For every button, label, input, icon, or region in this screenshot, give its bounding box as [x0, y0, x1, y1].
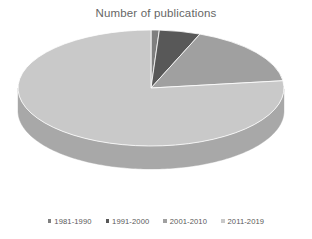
- square-marker-icon: [106, 219, 110, 223]
- legend-item[interactable]: 2001-2010: [163, 217, 207, 226]
- legend-item[interactable]: 2011-2019: [221, 217, 264, 226]
- pie-chart-figure: Number of publications 1981-1990 1991-20…: [0, 0, 312, 239]
- legend-item[interactable]: 1991-2000: [106, 217, 150, 226]
- square-marker-icon: [48, 219, 52, 223]
- pie-top-faces: [18, 30, 284, 146]
- legend-item-label: 2011-2019: [228, 217, 265, 226]
- legend-item[interactable]: 1981-1990: [48, 217, 92, 226]
- legend-item-label: 2001-2010: [170, 217, 207, 226]
- chart-legend: 1981-1990 1991-2000 2001-2010 2011-2019: [0, 212, 312, 230]
- square-marker-icon: [221, 219, 225, 223]
- legend-item-label: 1981-1990: [54, 217, 91, 226]
- chart-title: Number of publications: [0, 6, 312, 20]
- square-marker-icon: [163, 219, 167, 223]
- plot-area: [0, 24, 312, 202]
- pie-3d-graphic: [0, 24, 312, 202]
- legend-item-label: 1991-2000: [112, 217, 149, 226]
